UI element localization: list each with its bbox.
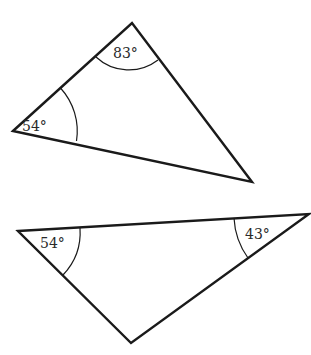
diagram-canvas: 54° 83° 54° 43°	[0, 0, 311, 355]
triangle-2-angle-label-left: 54°	[40, 235, 65, 251]
triangle-1-angle-label-left: 54°	[22, 118, 47, 134]
triangle-2-angle-arc-left	[63, 228, 80, 275]
triangle-2-angle-label-right: 43°	[245, 226, 270, 242]
triangle-1-angle-arc-left	[61, 88, 78, 141]
triangle-1: 54° 83°	[13, 23, 252, 182]
triangle-1-angle-label-top: 83°	[113, 45, 138, 61]
triangle-2: 54° 43°	[18, 214, 309, 343]
